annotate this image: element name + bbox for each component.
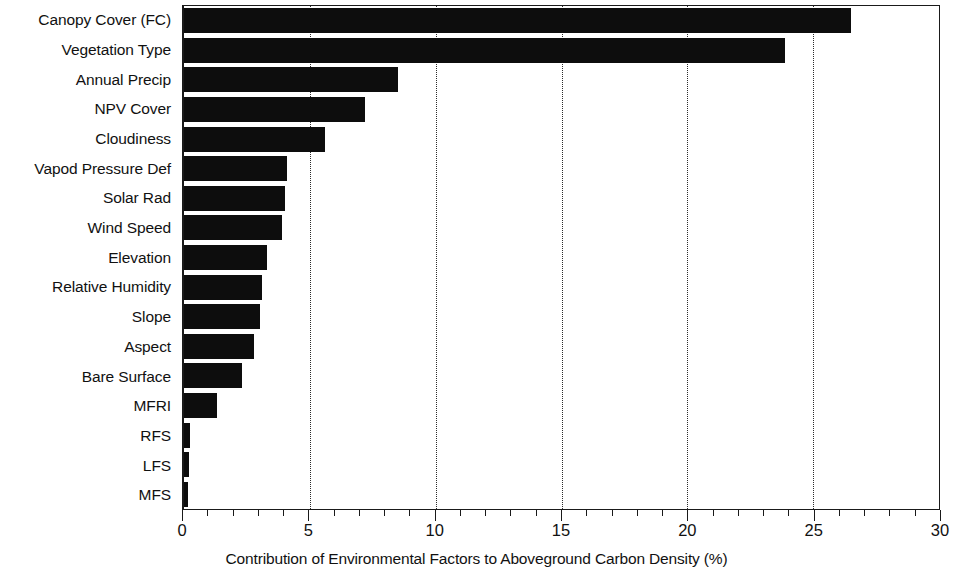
plot-area — [182, 5, 940, 510]
bar — [184, 275, 262, 300]
bar — [184, 452, 189, 477]
x-axis-minor-tick — [738, 510, 739, 516]
x-axis-tick-label: 10 — [425, 522, 443, 539]
x-axis-minor-tick — [258, 510, 259, 516]
x-axis-tick-label: 15 — [552, 522, 570, 539]
bar-row — [184, 302, 939, 332]
category-label: NPV Cover — [0, 94, 177, 124]
x-axis-minor-tick — [460, 510, 461, 516]
x-axis-minor-tick — [713, 510, 714, 516]
bar-row — [184, 480, 939, 510]
x-axis-tick-label: 30 — [931, 522, 949, 539]
bar — [184, 334, 254, 359]
x-axis-major-tick — [687, 510, 688, 521]
bar-row — [184, 154, 939, 184]
x-axis-tick-label: 5 — [304, 522, 313, 539]
x-axis-tick-labels: 051015202530 — [182, 522, 940, 544]
bar-row — [184, 391, 939, 421]
bar-row — [184, 243, 939, 273]
category-label: MFS — [0, 480, 177, 510]
bar — [184, 186, 285, 211]
bar-series — [184, 6, 939, 509]
x-axis-minor-tick — [788, 510, 789, 516]
x-axis-minor-tick — [612, 510, 613, 516]
bar — [184, 482, 188, 507]
x-axis-minor-tick — [662, 510, 663, 516]
bar-row — [184, 124, 939, 154]
x-axis-title: Contribution of Environmental Factors to… — [0, 551, 953, 567]
x-axis-minor-tick — [359, 510, 360, 516]
bar-row — [184, 213, 939, 243]
x-axis-minor-tick — [763, 510, 764, 516]
bar-row — [184, 361, 939, 391]
category-label: Slope — [0, 302, 177, 332]
category-label: Vapod Pressure Def — [0, 154, 177, 184]
category-label: Elevation — [0, 243, 177, 273]
bar — [184, 97, 365, 122]
category-label: Aspect — [0, 332, 177, 362]
bar — [184, 215, 282, 240]
x-axis-minor-tick — [283, 510, 284, 516]
category-label: MFRI — [0, 391, 177, 421]
bar-row — [184, 6, 939, 36]
x-axis-minor-tick — [384, 510, 385, 516]
x-axis-minor-tick — [637, 510, 638, 516]
x-axis-minor-tick — [864, 510, 865, 516]
x-axis-major-tick — [814, 510, 815, 521]
bar — [184, 38, 785, 63]
category-label: LFS — [0, 451, 177, 481]
x-axis-minor-tick — [409, 510, 410, 516]
x-axis-minor-tick — [586, 510, 587, 516]
x-axis-minor-tick — [485, 510, 486, 516]
bar — [184, 423, 190, 448]
x-axis-tick-label: 20 — [678, 522, 696, 539]
bar — [184, 363, 242, 388]
bar-row — [184, 332, 939, 362]
x-axis-minor-tick — [233, 510, 234, 516]
x-axis-minor-tick — [839, 510, 840, 516]
bar-row — [184, 184, 939, 214]
bar — [184, 304, 260, 329]
x-axis-minor-tick — [334, 510, 335, 516]
bar — [184, 156, 287, 181]
category-label: Annual Precip — [0, 64, 177, 94]
category-label: Bare Surface — [0, 361, 177, 391]
bar-row — [184, 65, 939, 95]
category-label: Cloudiness — [0, 124, 177, 154]
x-axis-major-tick — [435, 510, 436, 521]
bar — [184, 8, 851, 33]
bar — [184, 67, 398, 92]
x-axis-major-tick — [182, 510, 183, 521]
x-axis-minor-tick — [510, 510, 511, 516]
bar-chart: Canopy Cover (FC)Vegetation TypeAnnual P… — [0, 0, 953, 579]
category-label: Vegetation Type — [0, 35, 177, 65]
x-axis-minor-tick — [207, 510, 208, 516]
category-label: Relative Humidity — [0, 272, 177, 302]
category-label: Canopy Cover (FC) — [0, 5, 177, 35]
bar-row — [184, 95, 939, 125]
bar-row — [184, 450, 939, 480]
x-axis-minor-tick — [915, 510, 916, 516]
category-label: Wind Speed — [0, 213, 177, 243]
category-label: Solar Rad — [0, 183, 177, 213]
bar-row — [184, 36, 939, 66]
bar-row — [184, 420, 939, 450]
bar — [184, 393, 217, 418]
category-label: RFS — [0, 421, 177, 451]
x-axis-minor-tick — [536, 510, 537, 516]
bar — [184, 245, 267, 270]
bar — [184, 127, 325, 152]
category-axis: Canopy Cover (FC)Vegetation TypeAnnual P… — [0, 5, 177, 510]
x-axis-major-tick — [308, 510, 309, 521]
x-axis-tick-label: 25 — [804, 522, 822, 539]
x-axis-major-tick — [561, 510, 562, 521]
bar-row — [184, 272, 939, 302]
x-axis-major-tick — [940, 510, 941, 521]
x-axis-tick-label: 0 — [177, 522, 186, 539]
x-axis-minor-tick — [889, 510, 890, 516]
